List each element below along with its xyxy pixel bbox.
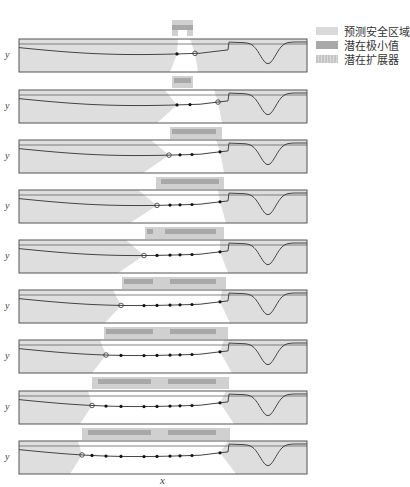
y-axis-label: y [5,300,9,311]
y-axis-label: y [5,250,9,261]
evaluated-point [178,454,181,457]
minimizer-bar [165,229,216,234]
evaluated-point [142,455,145,458]
evaluated-point [104,404,107,407]
expander-swatch [316,55,338,63]
y-axis-label: y [5,150,9,161]
panel-8 [19,391,307,424]
y-axis-label: y [5,200,9,211]
minimizer-bar [106,329,153,334]
panel-2 [19,90,307,123]
evaluated-point [168,304,171,307]
minimizer-bar [170,329,216,334]
legend: 预测安全区域 潜在极小值 潜在扩展器 [316,24,410,66]
evaluated-point [119,354,122,357]
y-axis-label: y [5,350,9,361]
minimizer-bar [168,430,216,435]
evaluated-point [104,454,107,457]
evaluated-point [190,454,193,457]
minimizer-bar [168,379,216,384]
minimizer-bar [170,279,216,284]
evaluated-point [119,455,122,458]
evaluated-point [175,103,178,106]
evaluated-point [155,455,158,458]
panel-9 [19,441,307,474]
minimizer-bar [172,25,193,30]
evaluated-point [218,200,221,203]
evaluated-point [188,103,191,106]
bar-gap [178,30,187,36]
evaluated-point [168,204,171,207]
panel-3 [19,140,307,173]
evaluated-point [218,451,221,454]
evaluated-point [218,300,221,303]
evaluated-point [218,250,221,253]
minimizer-bar [174,78,191,83]
evaluated-point [178,203,181,206]
y-axis-label: y [5,49,9,60]
evaluated-point [155,304,158,307]
evaluated-point [142,405,145,408]
evaluated-point [190,203,193,206]
evaluated-point [142,304,145,307]
evaluated-point [155,405,158,408]
evaluated-point [218,150,221,153]
minimizer-bar [172,129,216,134]
y-axis-label: y [5,100,9,111]
evaluated-point [175,52,178,55]
evaluated-point [178,153,181,156]
panel-4 [19,190,307,223]
evaluated-point [168,254,171,257]
minimizer-swatch [316,41,338,49]
evaluated-point [218,401,221,404]
legend-item-safe-region: 预测安全区域 [316,24,410,37]
y-axis-label: y [5,401,9,412]
evaluated-point [178,404,181,407]
y-axis-label: y [5,451,9,462]
evaluated-point [190,404,193,407]
evaluated-point [168,405,171,408]
evaluated-point [190,153,193,156]
evaluated-point [190,303,193,306]
panel-1 [19,39,307,72]
legend-item-expanders: 潜在扩展器 [316,52,410,65]
evaluated-point [155,254,158,257]
evaluated-point [142,354,145,357]
safe-region-upper [78,441,228,455]
evaluated-point [168,354,171,357]
x-axis-label: x [160,474,165,486]
safe-region-swatch [316,27,338,35]
evaluated-point [178,353,181,356]
minimizer-bar [98,379,151,384]
evaluated-point [190,353,193,356]
panel-5 [19,240,307,273]
legend-item-minimizers: 潜在极小值 [316,38,410,51]
evaluated-point [218,350,221,353]
evaluated-point [119,405,122,408]
minimizer-bar [88,430,151,435]
minimizer-bar [147,229,153,234]
evaluated-point [155,354,158,357]
evaluated-point [178,253,181,256]
panel-6 [19,290,307,323]
evaluated-point [178,303,181,306]
panel-7 [19,340,307,373]
legend-label: 潜在扩展器 [344,51,399,67]
minimizer-bar [161,179,219,184]
evaluated-point [90,454,93,457]
minimizer-bar [124,279,153,284]
evaluated-point [168,455,171,458]
evaluated-point [190,253,193,256]
